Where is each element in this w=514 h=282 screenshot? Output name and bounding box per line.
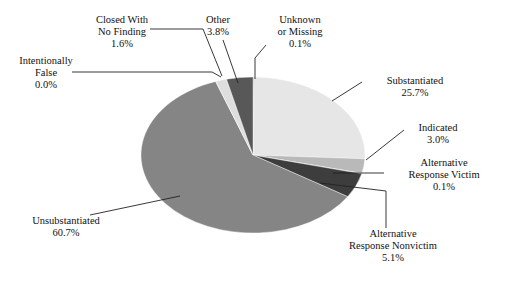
pie-label-line: Indicated [406, 122, 470, 134]
pie-label-value: 0.1% [262, 38, 338, 50]
pie-label-line: No Finding [68, 26, 176, 38]
leader-line-substantiated [332, 82, 362, 101]
pie-label-line: or Missing [262, 26, 338, 38]
pie-label-value: 3.8% [190, 26, 246, 38]
pie-label-line: Response Victim [386, 169, 502, 181]
pie-label-alternative-response-nonvictim: Alternative Response Nonvictim 5.1% [332, 228, 454, 265]
pie-label-value: 25.7% [366, 87, 464, 99]
pie-label-line: Closed With [68, 14, 176, 26]
leader-line-other [223, 40, 238, 83]
pie-label-line: Alternative [386, 157, 502, 169]
pie-label-value: 0.0% [8, 79, 84, 91]
pie-label-line: Response Nonvictim [332, 240, 454, 252]
pie-label-unknown-or-missing: Unknown or Missing 0.1% [262, 14, 338, 51]
pie-label-closed-with-no-finding: Closed With No Finding 1.6% [68, 14, 176, 51]
pie-label-value: 0.1% [386, 181, 502, 193]
pie-label-line: Unsubstantiated [10, 215, 122, 227]
leader-line-intentionally-false [72, 72, 221, 77]
pie-label-other: Other 3.8% [190, 14, 246, 38]
pie-label-value: 5.1% [332, 252, 454, 264]
pie-slice-substantiated[interactable] [253, 77, 365, 159]
pie-label-line: Intentionally [8, 55, 84, 67]
pie-label-value: 60.7% [10, 227, 122, 239]
pie-label-alternative-response-victim: Alternative Response Victim 0.1% [386, 157, 502, 194]
pie-label-line: Unknown [262, 14, 338, 26]
pie-label-unsubstantiated: Unsubstantiated 60.7% [10, 215, 122, 239]
pie-label-intentionally-false: Intentionally False 0.0% [8, 55, 84, 92]
pie-label-value: 3.0% [406, 134, 470, 146]
pie-chart-figure: Closed With No Finding 1.6% Other 3.8% U… [0, 0, 514, 282]
pie-label-indicated: Indicated 3.0% [406, 122, 470, 146]
pie-label-line: Other [190, 14, 246, 26]
pie-label-value: 1.6% [68, 38, 176, 50]
pie-label-line: Alternative [332, 228, 454, 240]
leader-line-indicated [366, 130, 404, 160]
pie-label-substantiated: Substantiated 25.7% [366, 75, 464, 99]
pie-slice-group [141, 77, 365, 233]
pie-label-line: Substantiated [366, 75, 464, 87]
pie-label-line: False [8, 67, 84, 79]
leader-line-unsubstantiated [90, 196, 180, 215]
